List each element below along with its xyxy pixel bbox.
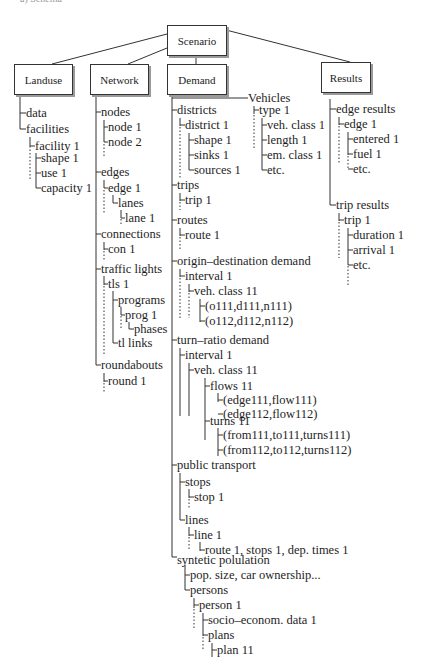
demand-node: veh. class 11 — [194, 363, 258, 377]
demand-node: (from111,to111,turns111) — [223, 428, 350, 442]
demand-node: person 1 — [199, 598, 242, 612]
network-node: node 1 — [108, 120, 142, 134]
vehicles-node: em. class 1 — [267, 148, 322, 162]
demand-node: public transport — [177, 458, 256, 472]
vehicles-node: type 1 — [259, 103, 290, 117]
demand-node: districts — [177, 103, 217, 117]
landuse-node: data — [26, 106, 47, 120]
demand-box: Demand — [167, 64, 227, 95]
demand-node: pop. size, car ownership... — [190, 568, 321, 582]
demand-label: Demand — [178, 74, 215, 86]
results-node: fuel 1 — [353, 147, 382, 161]
results-label: Results — [330, 72, 362, 84]
demand-node: flows 11 — [210, 379, 253, 393]
demand-node: turns 11 — [210, 414, 250, 428]
demand-node: plans — [208, 628, 234, 642]
demand-node: trips — [177, 178, 199, 192]
landuse-node: use 1 — [41, 166, 67, 180]
network-node: programs — [118, 293, 165, 307]
demand-node: turn–ratio demand — [177, 333, 269, 347]
demand-node: line 1 — [194, 528, 222, 542]
results-node: edge 1 — [344, 117, 377, 131]
network-node: traffic lights — [101, 262, 162, 276]
demand-node: (o112,d112,n112) — [205, 314, 293, 328]
network-node: con 1 — [108, 242, 135, 256]
demand-node: syntetic polulation — [177, 553, 270, 567]
demand-node: lines — [185, 513, 209, 527]
network-node: tl links — [118, 336, 152, 350]
demand-node: trip 1 — [185, 193, 212, 207]
demand-node: stops — [185, 475, 211, 489]
results-node: edge results — [336, 102, 395, 116]
vehicles-node: length 1 — [267, 133, 308, 147]
landuse-node: shape 1 — [41, 151, 79, 165]
landuse-label: Landuse — [25, 74, 62, 86]
demand-node: stop 1 — [194, 490, 224, 504]
network-node: lanes — [118, 196, 144, 210]
network-node: phases — [134, 322, 167, 336]
network-node: edge 1 — [108, 181, 141, 195]
demand-node: sources 1 — [194, 163, 241, 177]
network-node: lane 1 — [125, 211, 155, 225]
network-label: Network — [100, 74, 139, 86]
landuse-box: Landuse — [14, 64, 73, 95]
demand-node: routes — [177, 213, 208, 227]
demand-node: (edge111,flow111) — [223, 393, 317, 407]
demand-node: plan 11 — [217, 643, 254, 657]
network-node: connections — [101, 227, 161, 241]
results-node: trip results — [336, 198, 389, 212]
network-node: node 2 — [108, 135, 142, 149]
demand-node: socio–econom. data 1 — [208, 613, 317, 627]
results-node: entered 1 — [353, 132, 399, 146]
demand-node: (o111,d111,n111) — [205, 299, 292, 313]
network-node: roundabouts — [101, 358, 163, 372]
network-node: tls 1 — [108, 277, 129, 291]
network-node: nodes — [101, 105, 130, 119]
network-node: round 1 — [108, 374, 147, 388]
landuse-node: capacity 1 — [41, 181, 92, 195]
results-node: arrival 1 — [353, 243, 395, 257]
demand-node: district 1 — [185, 118, 229, 132]
demand-node: persons — [190, 583, 228, 597]
demand-node: shape 1 — [194, 133, 232, 147]
demand-node: (from112,to112,turns112) — [223, 443, 351, 457]
demand-node: origin–destination demand — [177, 254, 311, 268]
results-node: trip 1 — [344, 213, 371, 227]
results-box: Results — [321, 62, 371, 93]
results-node: etc. — [353, 162, 371, 176]
demand-node: veh. class 11 — [194, 284, 258, 298]
results-node: etc. — [353, 258, 371, 272]
landuse-node: facilities — [26, 122, 69, 136]
scenario-label: Scenario — [178, 35, 216, 47]
network-node: prog 1 — [125, 308, 157, 322]
results-node: duration 1 — [353, 228, 404, 242]
vehicles-node: veh. class 1 — [267, 118, 325, 132]
scenario-box: Scenario — [167, 25, 227, 56]
demand-node: interval 1 — [185, 269, 233, 283]
demand-node: interval 1 — [185, 348, 233, 362]
network-node: edges — [101, 165, 129, 179]
demand-node: route 1 — [185, 228, 220, 242]
vehicles-node: etc. — [267, 163, 285, 177]
network-box: Network — [90, 64, 149, 95]
demand-node: sinks 1 — [194, 148, 229, 162]
